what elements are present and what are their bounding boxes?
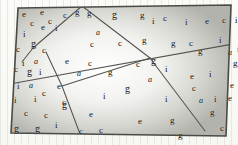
letter-i: i [14, 96, 17, 105]
letter-i: i [209, 70, 212, 79]
figure-canvas: eecggccggciiecieiiaccggcigccgaiiaeccgiag… [0, 0, 238, 145]
letter-c: c [24, 109, 28, 118]
letter-i: i [22, 59, 25, 68]
letter-i: i [103, 92, 106, 101]
letter-e: e [205, 17, 209, 26]
letter-scatter-figure: eecggccggciiecieiiaccggcigccgaiiaeccgiag… [0, 0, 238, 145]
letter-g: g [140, 11, 145, 20]
letter-e: e [40, 8, 44, 17]
letter-i: i [214, 95, 217, 104]
letter-c: c [14, 65, 18, 74]
letter-a: a [96, 29, 100, 37]
letter-i: i [165, 65, 168, 74]
letter-g: g [75, 8, 80, 17]
letter-c: c [16, 45, 20, 54]
letter-e: e [41, 23, 45, 32]
letter-a: a [199, 97, 203, 105]
letter-e: e [190, 72, 194, 81]
letter-i: i [34, 95, 37, 104]
letter-g: g [108, 68, 113, 77]
letter-c: c [42, 89, 46, 98]
letter-g: g [210, 108, 215, 117]
letter-g: g [87, 9, 92, 18]
letter-g: g [27, 67, 32, 77]
letter-g: g [170, 116, 175, 125]
letter-i: i [237, 45, 238, 54]
letter-i: i [152, 17, 155, 26]
letter-c: c [189, 39, 193, 48]
letter-c: c [79, 127, 83, 136]
letter-g: g [112, 10, 117, 20]
letter-c: c [163, 14, 167, 23]
letter-i: i [55, 24, 58, 33]
letter-c: c [99, 126, 103, 135]
letter-g: g [233, 59, 238, 68]
letter-c: c [118, 39, 122, 48]
letter-g: g [198, 47, 203, 56]
letter-c: c [192, 84, 196, 93]
letter-c: c [90, 40, 94, 49]
letter-g: g [35, 124, 40, 134]
letter-c: c [30, 19, 34, 28]
letter-a: a [77, 70, 81, 78]
letter-a: a [228, 49, 232, 57]
letter-a: a [29, 82, 33, 90]
letter-e: e [57, 82, 61, 91]
letter-c: c [48, 17, 52, 26]
letter-e: e [65, 57, 69, 66]
letter-g: g [151, 56, 156, 66]
letter-g: g [178, 131, 183, 140]
letter-g: g [14, 124, 19, 134]
letter-c: c [136, 60, 140, 69]
letter-a: a [34, 58, 38, 66]
letter-i: i [165, 95, 168, 104]
letter-i: i [235, 16, 238, 25]
letter-c: c [88, 59, 92, 68]
letter-g: g [31, 39, 36, 49]
letter-i: i [219, 36, 222, 45]
letter-g: g [62, 100, 67, 110]
letter-g: g [125, 84, 130, 94]
letter-g: g [171, 39, 176, 48]
letter-a: a [148, 76, 152, 84]
letter-g: g [142, 36, 147, 45]
letter-i: i [39, 68, 42, 77]
letter-e: e [138, 117, 142, 126]
letter-c: c [222, 16, 226, 25]
letter-c: c [44, 111, 48, 120]
letter-i: i [55, 121, 58, 130]
letter-e: e [228, 94, 232, 103]
letter-c: c [63, 11, 67, 20]
letter-c: c [42, 46, 46, 55]
letter-e: e [89, 110, 93, 119]
letter-i: i [17, 82, 20, 91]
letter-i: i [185, 18, 188, 27]
letter-e: e [230, 81, 234, 90]
letter-i: i [23, 30, 26, 39]
letter-c: c [220, 124, 224, 133]
letter-e: e [22, 10, 26, 19]
